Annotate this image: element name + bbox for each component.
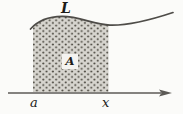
area-under-curve-figure: L A a x — [0, 0, 183, 114]
area-label: A — [66, 56, 75, 68]
diagram-canvas — [0, 0, 183, 114]
upper-bound-label: x — [102, 96, 109, 109]
lower-bound-label: a — [30, 96, 38, 109]
area-label-box: A — [62, 54, 78, 69]
curve-label: L — [61, 1, 71, 15]
